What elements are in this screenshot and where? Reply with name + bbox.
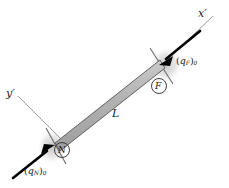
far-node-label: F xyxy=(155,82,161,91)
far-load-label: (qF)0 xyxy=(176,56,197,67)
beam-length-label: L xyxy=(112,108,119,119)
near-load-label: (qN)0 xyxy=(24,166,46,177)
y-prime-axis-line xyxy=(18,96,64,142)
beam-element-diagram: x′ y′ L (qF)0 (qN)0 F N xyxy=(0,0,229,188)
near-node-label: N xyxy=(58,146,66,155)
beam-body xyxy=(55,60,165,151)
x-prime-axis-label: x′ xyxy=(198,8,207,19)
diagram-canvas xyxy=(0,0,229,188)
y-prime-axis-label: y′ xyxy=(6,88,15,99)
